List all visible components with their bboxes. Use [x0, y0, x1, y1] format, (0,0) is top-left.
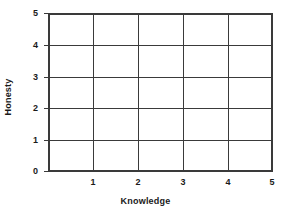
grid-line-vertical-x0 [48, 13, 50, 172]
grid-line-horizontal-y3 [48, 77, 273, 78]
grid-line-vertical-x4 [228, 13, 229, 172]
chart-figure: 5 4 3 2 1 0 1 2 3 4 5 Knowledge Honesty [0, 0, 291, 216]
y-axis-title: Honesty [3, 79, 13, 116]
y-tick-mark-5 [44, 13, 48, 14]
y-tick-mark-4 [44, 45, 48, 46]
y-tick-label-5: 5 [33, 9, 38, 18]
x-tick-label-1: 1 [90, 178, 95, 187]
grid-line-vertical-x3 [183, 13, 184, 172]
y-tick-mark-2 [44, 108, 48, 109]
grid-line-horizontal-y1 [48, 140, 273, 141]
y-tick-mark-3 [44, 77, 48, 78]
y-tick-label-3: 3 [33, 73, 38, 82]
x-tick-label-3: 3 [180, 178, 185, 187]
grid-line-horizontal-y2 [48, 108, 273, 109]
grid-line-horizontal-y0 [48, 170, 273, 172]
grid-line-vertical-x1 [93, 13, 94, 172]
y-tick-mark-1 [44, 140, 48, 141]
x-tick-label-4: 4 [225, 178, 230, 187]
plot-area [48, 13, 273, 172]
y-tick-label-2: 2 [33, 104, 38, 113]
grid-line-vertical-x5 [271, 13, 273, 172]
y-tick-label-0: 0 [33, 167, 38, 176]
grid-line-horizontal-y4 [48, 45, 273, 46]
grid-line-vertical-x2 [138, 13, 139, 172]
x-axis-title: Knowledge [0, 196, 291, 206]
y-tick-mark-0 [44, 171, 48, 172]
x-tick-label-2: 2 [135, 178, 140, 187]
y-tick-label-4: 4 [33, 41, 38, 50]
y-tick-label-1: 1 [33, 136, 38, 145]
x-tick-label-5: 5 [269, 178, 274, 187]
grid-line-horizontal-y5 [48, 13, 273, 15]
